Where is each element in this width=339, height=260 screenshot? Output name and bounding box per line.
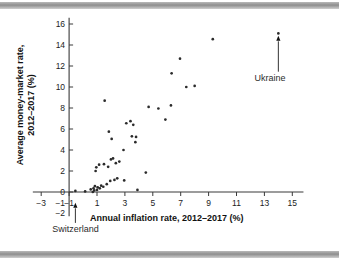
data-point bbox=[103, 163, 106, 166]
data-point bbox=[122, 149, 125, 152]
x-axis-title: Annual inflation rate, 2012–2017 (%) bbox=[90, 213, 244, 223]
data-point bbox=[98, 163, 101, 166]
data-point bbox=[131, 135, 134, 138]
data-point bbox=[157, 107, 160, 110]
data-point bbox=[185, 86, 188, 89]
x-tick-label--3: −3 bbox=[36, 198, 46, 208]
data-point bbox=[136, 189, 139, 192]
y-tick-label-2: 2 bbox=[60, 166, 65, 176]
y-axis-title-line-2: 2012–2017 (%) bbox=[26, 74, 36, 136]
y-tick-label-16: 16 bbox=[56, 19, 66, 29]
data-point bbox=[109, 180, 112, 183]
data-point bbox=[116, 177, 119, 180]
y-tick-label-6: 6 bbox=[60, 124, 65, 134]
y-tick-label-4: 4 bbox=[60, 145, 65, 155]
x-tick-label-5: 5 bbox=[150, 198, 155, 208]
data-point bbox=[102, 185, 105, 188]
chart-figure: SwitzerlandUkraine −3−113579111315024681… bbox=[0, 0, 339, 260]
data-points-layer bbox=[74, 32, 280, 193]
data-point bbox=[103, 99, 106, 102]
data-point bbox=[118, 160, 121, 163]
data-point bbox=[164, 118, 167, 121]
data-point bbox=[277, 32, 280, 35]
data-point bbox=[170, 104, 173, 107]
data-point bbox=[89, 188, 92, 191]
data-point bbox=[94, 185, 97, 188]
data-point bbox=[135, 136, 138, 139]
data-point bbox=[211, 38, 214, 41]
y-tick-label-14: 14 bbox=[56, 40, 66, 50]
data-point bbox=[144, 171, 147, 174]
x-tick-label-3: 3 bbox=[123, 198, 128, 208]
data-point bbox=[132, 123, 135, 126]
data-point bbox=[193, 85, 196, 88]
y-tick-label-10: 10 bbox=[56, 82, 66, 92]
data-point bbox=[98, 187, 101, 190]
data-point bbox=[96, 189, 99, 192]
x-tick-label-7: 7 bbox=[178, 198, 183, 208]
data-point bbox=[134, 141, 137, 144]
annotations-layer: SwitzerlandUkraine bbox=[52, 36, 285, 234]
y-tick-label-12: 12 bbox=[56, 61, 66, 71]
data-point bbox=[179, 57, 182, 60]
x-tick-label-1: 1 bbox=[95, 198, 100, 208]
callout-label-switzerland: Switzerland bbox=[52, 224, 99, 234]
data-point bbox=[94, 170, 97, 173]
axes-layer bbox=[33, 18, 304, 216]
y-tick-label-0: 0 bbox=[60, 187, 65, 197]
y-tick-label--2: −2 bbox=[55, 208, 65, 218]
y-axis-title-line-1: Average money-market rate, bbox=[15, 45, 25, 166]
data-point bbox=[110, 138, 113, 141]
marker-triangle-ukraine bbox=[276, 36, 280, 41]
y-tick-label--1: −1 bbox=[55, 198, 65, 208]
x-tick-label-11: 11 bbox=[232, 198, 241, 208]
data-point bbox=[114, 162, 117, 165]
annotation-ukraine bbox=[276, 36, 280, 72]
x-tick-label-15: 15 bbox=[288, 198, 298, 208]
data-point bbox=[95, 166, 98, 169]
y-tick-label-8: 8 bbox=[60, 103, 65, 113]
data-point bbox=[108, 130, 111, 133]
scatter-plot: SwitzerlandUkraine −3−113579111315024681… bbox=[0, 0, 339, 260]
data-point bbox=[125, 122, 128, 125]
data-point bbox=[107, 165, 110, 168]
data-point bbox=[129, 120, 132, 123]
data-point bbox=[84, 190, 87, 193]
data-point bbox=[93, 189, 96, 192]
x-tick-label-13: 13 bbox=[260, 198, 270, 208]
x-tick-label-9: 9 bbox=[206, 198, 211, 208]
data-point bbox=[123, 179, 126, 182]
callout-label-ukraine: Ukraine bbox=[254, 73, 285, 83]
data-point bbox=[105, 183, 108, 186]
data-point bbox=[74, 190, 77, 193]
data-point bbox=[147, 106, 150, 109]
x-tick-label--1: −1 bbox=[64, 198, 74, 208]
data-point bbox=[113, 179, 116, 182]
data-point bbox=[112, 157, 115, 160]
data-point bbox=[170, 72, 173, 75]
